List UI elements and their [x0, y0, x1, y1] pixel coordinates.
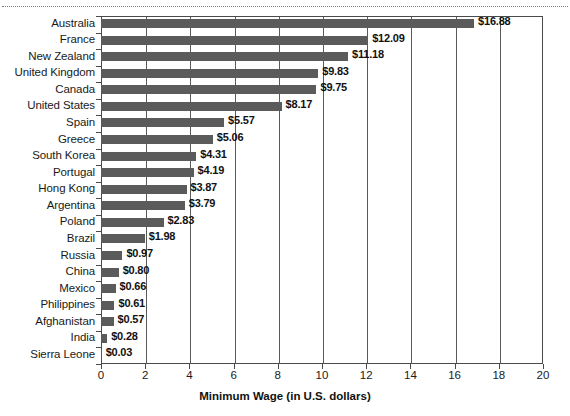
bar	[101, 251, 122, 260]
bar-row: $1.98	[101, 231, 543, 248]
bar-value-label: $0.03	[106, 346, 133, 358]
bar	[101, 201, 185, 210]
x-axis-tick-label: 8	[275, 369, 281, 381]
category-label: Philippines	[0, 298, 95, 310]
category-label: France	[0, 33, 95, 45]
bar-value-label: $16.88	[478, 15, 510, 27]
bar-value-label: $0.80	[123, 264, 150, 276]
bar	[101, 168, 194, 177]
x-axis-tick-label: 2	[142, 369, 148, 381]
x-axis-tick-label: 18	[492, 369, 505, 381]
bar-row: $9.83	[101, 66, 543, 83]
bar-row: $0.28	[101, 331, 543, 348]
x-axis-title: Minimum Wage (in U.S. dollars)	[0, 390, 570, 402]
bar-value-label: $4.19	[198, 164, 225, 176]
bar-row: $0.97	[101, 248, 543, 265]
bar-row: $0.03	[101, 347, 543, 364]
bar-row: $4.19	[101, 165, 543, 182]
bar-row: $4.31	[101, 149, 543, 166]
bar	[101, 268, 119, 277]
bar	[101, 69, 318, 78]
bar-row: $0.61	[101, 298, 543, 315]
bar	[101, 218, 164, 227]
bar-row: $3.79	[101, 198, 543, 215]
bar-row: $9.75	[101, 82, 543, 99]
bar	[101, 317, 114, 326]
bar-value-label: $5.06	[217, 131, 244, 143]
x-axis-tick-label: 20	[537, 369, 550, 381]
category-label: Russia	[0, 249, 95, 261]
bar-row: $0.57	[101, 314, 543, 331]
x-axis-tick-label: 4	[186, 369, 192, 381]
bar	[101, 36, 368, 45]
x-axis-tick-label: 16	[448, 369, 461, 381]
bar-value-label: $3.79	[189, 197, 216, 209]
category-label: Hong Kong	[0, 182, 95, 194]
bars-layer: $16.88$12.09$11.18$9.83$9.75$8.17$5.57$5…	[101, 16, 543, 364]
category-label: Sierra Leone	[0, 348, 95, 360]
bar-row: $0.66	[101, 281, 543, 298]
category-label: Brazil	[0, 232, 95, 244]
category-label: South Korea	[0, 149, 95, 161]
bar-value-label: $4.31	[200, 148, 227, 160]
bar	[101, 102, 282, 111]
bar-row: $0.80	[101, 265, 543, 282]
category-label: United Kingdom	[0, 66, 95, 78]
category-label: Poland	[0, 215, 95, 227]
bar	[101, 301, 114, 310]
bar-value-label: $9.83	[322, 65, 349, 77]
x-axis-tick-label: 10	[316, 369, 329, 381]
category-axis-labels: AustraliaFranceNew ZealandUnited Kingdom…	[0, 16, 95, 364]
bar-row: $16.88	[101, 16, 543, 33]
bar-value-label: $8.17	[286, 98, 313, 110]
bar	[101, 152, 196, 161]
category-label: Canada	[0, 83, 95, 95]
bar	[101, 135, 213, 144]
bar-value-label: $1.98	[149, 230, 176, 242]
bar-value-label: $0.57	[118, 313, 145, 325]
bar-value-label: $0.61	[118, 297, 145, 309]
bar	[101, 19, 474, 28]
bar-row: $5.57	[101, 115, 543, 132]
category-label: United States	[0, 99, 95, 111]
category-label: New Zealand	[0, 50, 95, 62]
category-label: China	[0, 265, 95, 277]
bar-row: $11.18	[101, 49, 543, 66]
bar-value-label: $2.83	[168, 214, 195, 226]
category-label: Greece	[0, 133, 95, 145]
x-axis-tick-label: 14	[404, 369, 417, 381]
category-label: Argentina	[0, 199, 95, 211]
x-axis-tick-label: 6	[230, 369, 236, 381]
top-dotted-divider	[2, 6, 568, 7]
bar-row: $2.83	[101, 215, 543, 232]
bar-value-label: $0.97	[126, 247, 153, 259]
x-axis-tick-label: 12	[360, 369, 373, 381]
bar-row: $8.17	[101, 99, 543, 116]
bar	[101, 85, 316, 94]
minimum-wage-bar-chart: AustraliaFranceNew ZealandUnited Kingdom…	[0, 0, 570, 416]
category-label: Mexico	[0, 282, 95, 294]
bar	[101, 118, 224, 127]
category-label: Spain	[0, 116, 95, 128]
category-label: Portugal	[0, 166, 95, 178]
bar-value-label: $0.28	[111, 330, 138, 342]
bar-value-label: $9.75	[320, 81, 347, 93]
category-label: Afghanistan	[0, 315, 95, 327]
bar-row: $12.09	[101, 33, 543, 50]
bar	[101, 234, 145, 243]
category-label: Australia	[0, 17, 95, 29]
bar	[101, 284, 116, 293]
category-label: India	[0, 331, 95, 343]
bar-row: $5.06	[101, 132, 543, 149]
bar	[101, 350, 102, 359]
x-axis-tick-labels: 02468101214161820	[0, 369, 570, 385]
bar-row: $3.87	[101, 182, 543, 199]
x-axis-tick-label: 0	[98, 369, 104, 381]
bar-value-label: $12.09	[372, 32, 404, 44]
bar-value-label: $3.87	[191, 181, 218, 193]
bar	[101, 185, 187, 194]
bar	[101, 334, 107, 343]
bar-value-label: $0.66	[120, 280, 147, 292]
bar	[101, 52, 348, 61]
bar-value-label: $5.57	[228, 114, 255, 126]
